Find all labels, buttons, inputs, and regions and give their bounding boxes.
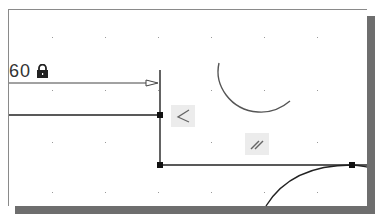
parallel-constraint[interactable] bbox=[245, 133, 269, 155]
arc-lower[interactable] bbox=[266, 165, 367, 206]
lock-icon[interactable] bbox=[36, 64, 49, 78]
endpoint-handle[interactable] bbox=[157, 112, 163, 118]
endpoint-handle[interactable] bbox=[157, 162, 163, 168]
dimension-value[interactable]: 60 bbox=[9, 62, 31, 80]
endpoint-handle[interactable] bbox=[349, 162, 355, 168]
perpendicular-icon bbox=[174, 109, 192, 123]
dimension-line[interactable] bbox=[9, 80, 158, 86]
arc-upper[interactable] bbox=[218, 63, 290, 112]
parallel-icon bbox=[248, 137, 266, 151]
perpendicular-constraint[interactable] bbox=[171, 105, 195, 127]
